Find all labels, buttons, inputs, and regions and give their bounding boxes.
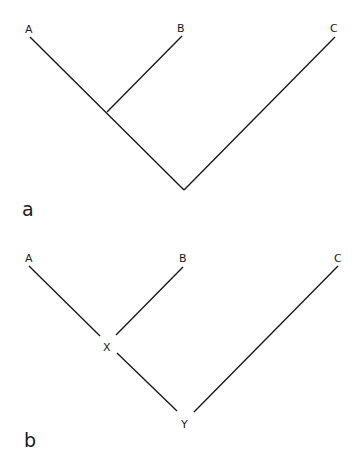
taxon-a-label: A [25, 23, 33, 36]
taxon-c-label: C [334, 252, 342, 265]
panel-a-label: a [22, 198, 34, 220]
panel-a: A B C a [22, 22, 338, 220]
branch-c-to-root [184, 37, 335, 190]
branch-x-to-y [117, 353, 177, 411]
branch-c-to-y [194, 266, 338, 412]
taxon-c-label: C [330, 22, 338, 35]
taxon-b-label: B [179, 252, 187, 265]
branch-a-to-root [30, 37, 184, 190]
branch-a-to-x [29, 266, 100, 336]
taxon-b-label: B [177, 22, 185, 35]
panel-b-label: b [24, 429, 36, 451]
branch-b-to-x [116, 267, 183, 335]
taxon-a-label: A [25, 252, 33, 265]
branch-b-to-node [107, 36, 182, 112]
node-y-label: Y [180, 418, 188, 431]
node-x-label: X [103, 341, 111, 354]
tree-diagrams: A B C a A B C X Y b [0, 0, 358, 458]
panel-b: A B C X Y b [24, 252, 342, 451]
